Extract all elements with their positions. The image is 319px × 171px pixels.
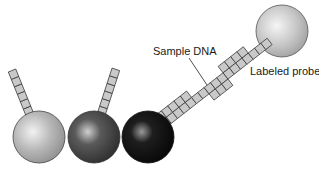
sample-dna-label: Sample DNA xyxy=(153,45,217,57)
diagram-canvas xyxy=(0,0,319,171)
bead-dark xyxy=(68,111,120,163)
labeled-probe-label: Labeled probe xyxy=(250,65,319,77)
bead-light xyxy=(13,111,65,163)
bead-black xyxy=(122,111,174,163)
probe-strand-2 xyxy=(97,68,119,116)
sample-dna-leader xyxy=(189,58,207,85)
probe-strand-1 xyxy=(8,69,33,117)
